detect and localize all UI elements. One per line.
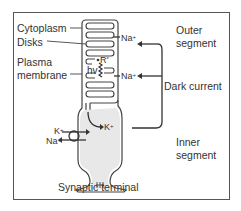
label-outer: Outer [176, 24, 202, 36]
ion-k-left: K+ [54, 126, 64, 136]
photon-hv: hv [87, 66, 98, 76]
ion-na-left: Na+ [46, 136, 61, 146]
label-plasma: Plasma [17, 56, 52, 68]
label-synaptic-terminal: Synaptic terminal [58, 181, 139, 193]
ion-na-mid: Na+ [121, 71, 136, 81]
label-membrane: membrane [17, 69, 67, 81]
activated-rhodopsin: R* [100, 55, 109, 65]
label-inner: Inner [176, 136, 200, 148]
inner-segment-fill [80, 108, 120, 189]
ion-na-top: Na+ [121, 33, 136, 43]
label-inner-segment: segment [176, 149, 216, 161]
label-dark-current: Dark current [164, 80, 222, 92]
cascade-squiggle-icon [99, 63, 102, 77]
label-outer-segment: segment [176, 37, 216, 49]
ion-k-inner: K+ [104, 122, 114, 132]
label-disks: Disks [17, 36, 43, 48]
label-cytoplasm: Cytoplasm [17, 22, 67, 34]
